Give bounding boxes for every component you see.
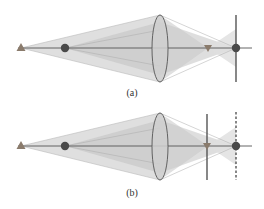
point-image-icon [232,44,240,52]
point-image-icon [232,142,240,150]
optics-diagram-a [0,0,264,100]
lens [152,113,168,180]
point-source-icon [61,142,69,150]
caption-b: (b) [0,187,264,198]
panel-a: (a) [0,0,264,100]
point-source-icon [61,44,69,52]
caption-a: (a) [0,87,264,98]
lens [152,15,168,82]
optics-diagram-b [0,98,264,198]
panel-b: (b) [0,98,264,209]
